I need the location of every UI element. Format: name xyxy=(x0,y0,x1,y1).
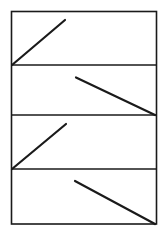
diagram-canvas xyxy=(0,0,168,237)
panel-1-rising-segment xyxy=(12,20,65,65)
diagonal-segments xyxy=(12,20,155,224)
outer-frame xyxy=(12,12,157,225)
panel-3-rising-segment xyxy=(12,124,66,169)
stacked-panels-diagram xyxy=(0,0,168,237)
panel-2-falling-segment xyxy=(76,78,155,116)
panel-4-falling-segment xyxy=(75,181,155,224)
